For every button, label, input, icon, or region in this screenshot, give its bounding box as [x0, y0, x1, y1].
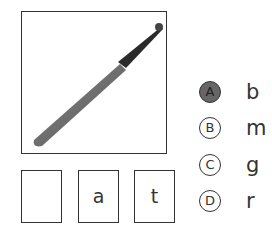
answer-bubble-b[interactable]: B: [199, 117, 221, 139]
option-letter: b: [246, 77, 259, 107]
word-box-3: t: [134, 170, 175, 223]
option-letter: r: [246, 186, 255, 216]
answer-bubble-d[interactable]: D: [199, 190, 221, 212]
word-box-letter: t: [151, 185, 158, 207]
baseball-bat-icon: [22, 12, 165, 152]
answer-bubble-a[interactable]: A: [199, 81, 221, 103]
answer-bubble-c[interactable]: C: [199, 154, 221, 176]
option-d[interactable]: D r: [199, 186, 271, 218]
option-letter: g: [246, 150, 259, 180]
option-letter: m: [246, 113, 266, 143]
picture-frame: [21, 11, 167, 154]
word-box-letter: a: [93, 185, 105, 207]
word-box-2: a: [78, 170, 119, 223]
option-a[interactable]: A b: [199, 77, 271, 109]
word-box-1: [21, 170, 62, 223]
option-b[interactable]: B m: [199, 113, 271, 145]
option-c[interactable]: C g: [199, 150, 271, 182]
